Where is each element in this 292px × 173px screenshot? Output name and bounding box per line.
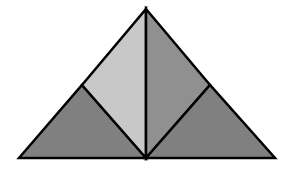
triangle-pieces — [19, 9, 275, 158]
triangle-diagram — [0, 0, 292, 173]
